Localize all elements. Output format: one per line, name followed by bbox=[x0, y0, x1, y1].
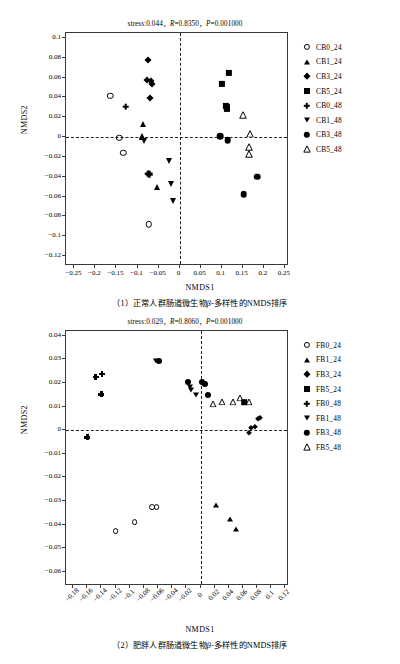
legend-label: FB1_24 bbox=[316, 355, 341, 364]
panel-1-x-axis-label: NMDS1 bbox=[0, 283, 400, 292]
filled-diamond-icon bbox=[300, 69, 314, 83]
legend-label: CB5_24 bbox=[316, 87, 342, 96]
legend-item-fb5_24[interactable]: FB5_24 bbox=[300, 382, 341, 397]
filled-circle-icon bbox=[300, 128, 314, 142]
data-point-cb5_24 bbox=[226, 70, 232, 76]
horizontal-reference-line bbox=[66, 430, 287, 431]
vertical-reference-line bbox=[201, 331, 202, 584]
x-axis-tick-label: −0.04 bbox=[163, 586, 180, 603]
marker-filled-diamond bbox=[304, 73, 311, 80]
legend-item-fb1_48[interactable]: FB1_48 bbox=[300, 411, 341, 426]
data-point-cb1_48 bbox=[141, 138, 147, 144]
y-axis-tick-mark bbox=[62, 96, 65, 97]
legend-item-cb5_24[interactable]: CB5_24 bbox=[300, 84, 342, 99]
data-point-cb1_48 bbox=[166, 158, 172, 164]
legend-item-fb0_24[interactable]: FB0_24 bbox=[300, 338, 341, 353]
data-point-cb0_24 bbox=[120, 149, 126, 155]
x-axis-tick-mark bbox=[137, 265, 138, 268]
legend-item-cb0_48[interactable]: CB0_48 bbox=[300, 98, 342, 113]
data-point-cb5_48 bbox=[239, 105, 247, 113]
y-axis-tick-mark bbox=[62, 382, 65, 383]
legend-item-fb3_24[interactable]: FB3_24 bbox=[300, 367, 341, 382]
panel-2-stats: stress:0.029，R=0.8060，P=0.001000 bbox=[60, 316, 310, 326]
marker-filled-circle bbox=[304, 430, 310, 436]
y-axis-tick-mark bbox=[62, 547, 65, 548]
data-point-fb0_48 bbox=[84, 434, 90, 440]
data-point-fb0_24 bbox=[132, 519, 138, 525]
data-point-fb1_48 bbox=[193, 393, 199, 398]
legend-label: CB1_24 bbox=[316, 57, 342, 66]
data-point-cb3_48 bbox=[240, 191, 247, 198]
y-axis-tick-label: −0.12 bbox=[33, 251, 61, 259]
panel-obese-population: stress:0.029，R=0.8060，P=0.001000 NMDS2 N… bbox=[0, 300, 400, 664]
y-axis-tick-label: 0.01 bbox=[33, 402, 61, 410]
panel-2-plot-area bbox=[65, 330, 288, 585]
y-axis-tick-label: −0.06 bbox=[33, 567, 61, 575]
y-axis-tick-label: −0.05 bbox=[33, 543, 61, 551]
y-axis-tick-label: −0.1 bbox=[33, 231, 61, 239]
x-axis-tick-mark bbox=[171, 585, 172, 588]
x-axis-tick-label: −0.1 bbox=[130, 269, 143, 277]
open-circle-icon bbox=[300, 40, 314, 54]
x-axis-tick-label: 0.1 bbox=[264, 589, 276, 601]
y-axis-tick-mark bbox=[62, 57, 65, 58]
panel-1-stats: stress:0.044，R=0.8350，P=0.001000 bbox=[60, 18, 310, 28]
legend-label: CB1_48 bbox=[316, 116, 342, 125]
x-axis-tick-label: −0.1 bbox=[121, 588, 136, 603]
legend-item-cb0_24[interactable]: CB0_24 bbox=[300, 40, 342, 55]
y-axis-tick-label: −0.02 bbox=[33, 152, 61, 160]
legend-label: CB0_48 bbox=[316, 101, 342, 110]
marker-filled-circle bbox=[304, 132, 310, 138]
legend-item-cb5_48[interactable]: CB5_48 bbox=[300, 142, 342, 157]
x-axis-tick-label: −0.06 bbox=[148, 586, 165, 603]
legend-item-fb0_48[interactable]: FB0_48 bbox=[300, 396, 341, 411]
data-point-fb3_48 bbox=[199, 379, 205, 385]
y-axis-tick-mark bbox=[62, 500, 65, 501]
x-axis-tick-label: −0.18 bbox=[64, 586, 81, 603]
data-point-cb3_48 bbox=[224, 137, 231, 144]
legend-item-cb3_48[interactable]: CB3_48 bbox=[300, 128, 342, 143]
open-circle-icon bbox=[300, 338, 314, 352]
x-axis-tick-label: −0.08 bbox=[134, 586, 151, 603]
x-axis-tick-mark bbox=[284, 265, 285, 268]
x-axis-tick-label: 0.15 bbox=[236, 269, 248, 277]
x-axis-tick-mark bbox=[242, 585, 243, 588]
stress-value: stress:0.044， bbox=[128, 20, 170, 28]
p-value: P=0.001000 bbox=[206, 318, 242, 326]
legend-label: FB5_24 bbox=[316, 385, 341, 394]
x-axis-tick-mark bbox=[200, 265, 201, 268]
legend-item-cb1_48[interactable]: CB1_48 bbox=[300, 113, 342, 128]
y-axis-tick-label: 0.02 bbox=[33, 112, 61, 120]
x-axis-tick-mark bbox=[221, 265, 222, 268]
marker-filled-triangle-down bbox=[304, 416, 310, 421]
legend-item-cb1_24[interactable]: CB1_24 bbox=[300, 55, 342, 70]
data-point-fb5_48 bbox=[218, 392, 225, 399]
data-point-cb5_48 bbox=[245, 144, 253, 152]
marker-open-triangle bbox=[303, 444, 311, 452]
data-point-cb1_24 bbox=[140, 121, 146, 127]
x-axis-tick-mark bbox=[115, 585, 116, 588]
data-point-cb0_24 bbox=[146, 221, 152, 227]
figure-nmds-ordination: stress:0.044，R=0.8350，P=0.001000 NMDS2 N… bbox=[0, 0, 400, 664]
marker-filled-square bbox=[304, 88, 310, 94]
y-axis-tick-mark bbox=[62, 116, 65, 117]
stress-value: stress:0.029， bbox=[128, 318, 170, 326]
data-point-cb0_24 bbox=[116, 134, 122, 140]
y-axis-tick-mark bbox=[62, 524, 65, 525]
x-axis-tick-mark bbox=[214, 585, 215, 588]
x-axis-tick-label: 0.06 bbox=[235, 588, 249, 602]
panel-2-caption: （2）肥胖人群肠道微生物β-多样性的NMDS排序 bbox=[0, 638, 400, 650]
panel-normal-population: stress:0.044，R=0.8350，P=0.001000 NMDS2 N… bbox=[0, 0, 400, 332]
legend-item-fb1_24[interactable]: FB1_24 bbox=[300, 353, 341, 368]
filled-circle-icon bbox=[300, 426, 314, 440]
x-axis-tick-label: −0.25 bbox=[65, 269, 81, 277]
legend-item-fb3_48[interactable]: FB3_48 bbox=[300, 426, 341, 441]
y-axis-tick-mark bbox=[62, 335, 65, 336]
legend-item-cb3_24[interactable]: CB3_24 bbox=[300, 69, 342, 84]
filled-triangle-icon bbox=[300, 353, 314, 367]
x-axis-tick-mark bbox=[228, 585, 229, 588]
legend-item-fb5_48[interactable]: FB5_48 bbox=[300, 440, 341, 455]
y-axis-tick-mark bbox=[62, 453, 65, 454]
x-axis-tick-mark bbox=[129, 585, 130, 588]
y-axis-tick-label: 0.04 bbox=[33, 331, 61, 339]
